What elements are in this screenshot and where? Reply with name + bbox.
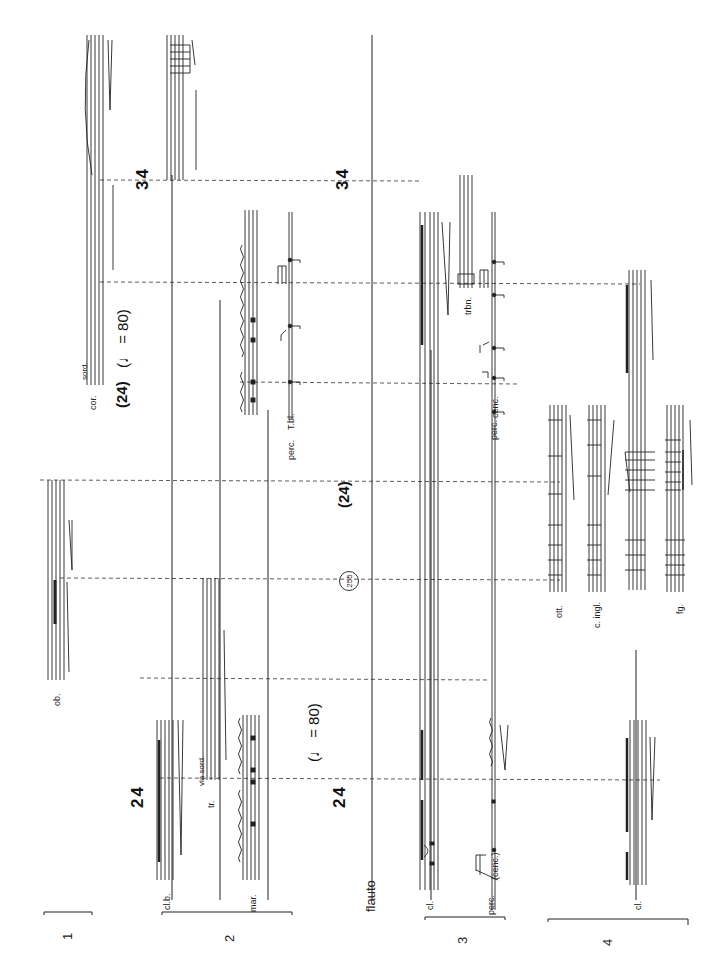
ts-numerator: 3 [133, 181, 152, 190]
rehearsal-mark-number: 255 [345, 574, 354, 587]
instrument-label-mar: mar. [248, 894, 258, 912]
ts-denominator: 4 [133, 169, 152, 178]
staff-ob [48, 480, 72, 680]
instrument-label-perc-tbl: perc. [286, 440, 296, 460]
instrument-label-tr: tr. [206, 800, 216, 808]
mute-label-via-sord: via sord. [197, 756, 206, 786]
ts-denominator: 4 [330, 787, 349, 796]
instrument-label-cor: cor. [88, 395, 98, 410]
group-number-4: 4 [600, 939, 615, 946]
ts-numerator: 2 [335, 495, 352, 503]
instrument-label-perc-3: perc. [486, 895, 496, 915]
instrument-label-cl-3: cl. [425, 901, 435, 910]
group-number-1: 1 [60, 933, 75, 940]
time-signature-3-4-a: 34 [135, 169, 150, 190]
staff-cl-4-upper [625, 270, 655, 590]
time-signature-2-4-a: 24 [130, 787, 145, 808]
mute-label-sord: sord. [80, 362, 89, 380]
instrument-label-ob: ob. [52, 693, 62, 706]
staff-cl-3 [420, 212, 450, 890]
staff-cl-4 [627, 720, 655, 885]
staff-mar-upper [241, 210, 258, 415]
score-page [0, 0, 725, 965]
ts-numerator: 2 [128, 799, 147, 808]
rehearsal-mark: 255 [339, 571, 359, 591]
time-signature-3-4-b: 34 [335, 169, 350, 190]
instrument-label-cenc-paren: (cenc.) [490, 852, 500, 880]
barlines-dashed [40, 180, 660, 780]
ts-denominator: 4 [333, 169, 352, 178]
instrument-label-fg: fg. [675, 604, 685, 614]
staff-tr [203, 578, 226, 780]
solo-label-flauto: flauto [363, 880, 378, 912]
ts-denominator: 4 [113, 386, 130, 394]
instrument-label-cl-b: cl.b. [162, 893, 172, 910]
staff-tbl [278, 212, 300, 420]
time-signature-2-4-paren-a: (24) [336, 481, 351, 508]
instrument-label-cenc: cenc. [490, 396, 500, 418]
tempo-marking-80-a: (♩ = 80) [305, 703, 322, 762]
staff-cor [85, 35, 113, 385]
instrument-label-perc-3b: perc. [489, 420, 499, 440]
group-brackets [44, 912, 688, 925]
staff-top-right [167, 35, 196, 180]
instrument-label-cl-4: cl. [633, 901, 643, 910]
instrument-label-trbn: trbn. [463, 297, 473, 315]
instrument-label-ott: ott. [554, 605, 564, 618]
staff-c-ingl [587, 405, 614, 592]
time-signature-2-4-paren-b: (24) [114, 381, 129, 408]
ts-numerator: 2 [330, 799, 349, 808]
staff-ott [548, 405, 574, 592]
instrument-label-tbl: T.bl. [286, 413, 296, 430]
instrument-label-c-ingl: c. ingl. [592, 602, 602, 628]
time-signature-2-4-b: 24 [332, 787, 347, 808]
staff-trbn [458, 175, 474, 288]
ts-numerator: 3 [333, 181, 352, 190]
staff-cl-b [157, 720, 183, 880]
group-number-2: 2 [222, 935, 237, 942]
staff-mar [239, 715, 260, 880]
group-number-3: 3 [455, 937, 470, 944]
ts-numerator: 2 [113, 395, 130, 403]
notes-cl-3 [424, 842, 434, 865]
ts-denominator: 4 [335, 486, 352, 494]
staff-fg [665, 405, 692, 592]
staff-perc-3 [476, 212, 508, 910]
tempo-marking-80-b: (♩ = 80) [114, 309, 131, 368]
ts-denominator: 4 [128, 787, 147, 796]
